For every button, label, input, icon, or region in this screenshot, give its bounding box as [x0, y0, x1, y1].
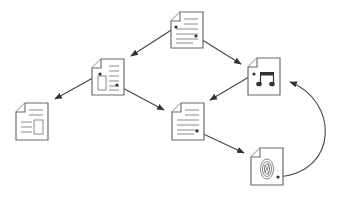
fingerprint-document-icon	[251, 148, 283, 185]
text-document-icon	[171, 12, 203, 48]
edge-top-to-left-mid	[131, 27, 176, 56]
edge-music-to-center	[210, 74, 254, 100]
node-doc-bottom-left[interactable]	[16, 103, 48, 140]
node-doc-center[interactable]	[172, 103, 204, 140]
text-document-icon	[172, 103, 204, 140]
edge-fingerprint-to-music-curved	[278, 82, 325, 177]
node-doc-top[interactable]	[171, 12, 203, 48]
document-link-diagram	[0, 0, 342, 199]
node-doc-fingerprint[interactable]	[251, 148, 283, 185]
music-note-document-icon	[248, 58, 280, 95]
node-doc-left-mid[interactable]	[92, 59, 124, 95]
document-with-image-icon	[92, 59, 124, 95]
node-doc-music[interactable]	[248, 58, 280, 95]
document-with-image-icon	[16, 103, 48, 140]
edges	[55, 27, 325, 177]
